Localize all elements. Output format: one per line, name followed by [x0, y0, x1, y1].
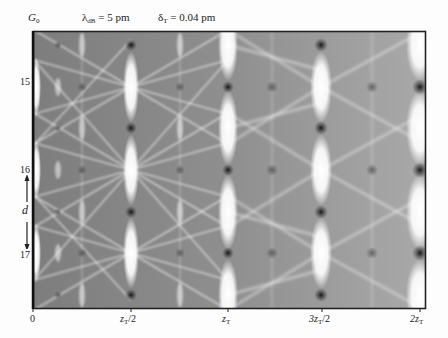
x-tick-zt: zT [222, 313, 230, 328]
talbot-carpet [0, 0, 448, 338]
param-lambda-db: λdB = 5 pm [82, 11, 130, 27]
x-tick-0: 0 [30, 313, 35, 325]
arrow-up-icon [25, 174, 30, 181]
slit-label-15: 15 [19, 76, 31, 87]
slit-label-16: 16 [19, 164, 31, 175]
param-delta-t: δT = 0.04 pm [158, 11, 215, 27]
figure-label-g0: G0 [28, 11, 39, 27]
x-tick-2zt: 2zT [410, 313, 423, 328]
x-tick-3zt-half: 3zT/2 [309, 313, 330, 328]
period-label-d: d [22, 204, 28, 216]
slit-label-17: 17 [19, 249, 31, 260]
x-tick-zt-half: zT/2 [120, 313, 136, 328]
